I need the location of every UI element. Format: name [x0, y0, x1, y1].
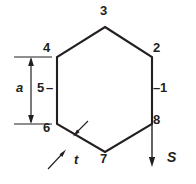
tick-mark-for-label-5: –	[46, 81, 53, 94]
thickness-leader-lower	[48, 153, 63, 169]
vertex-label-7: 7	[100, 152, 107, 165]
shear-arrowhead	[149, 157, 155, 167]
vertex-label-4: 4	[43, 41, 50, 54]
hexagon-outline	[57, 27, 152, 152]
vertex-label-8: 8	[153, 113, 160, 126]
vertex-label-6: 6	[43, 121, 50, 134]
dimension-label-t: t	[74, 153, 78, 166]
vertex-label-1: 1	[160, 81, 167, 94]
tick-mark-for-label-1: –	[153, 81, 160, 94]
dimension-label-S: S	[167, 150, 176, 164]
vertex-label-3: 3	[100, 4, 107, 17]
dimension-label-a: a	[16, 81, 23, 94]
hexagon-cross-section-figure: 1 2 3 4 5 6 7 8 – – a t S	[0, 0, 196, 184]
dimension-a-arrowhead-down	[28, 115, 34, 124]
vertex-label-5: 5	[37, 81, 44, 94]
vertex-label-2: 2	[153, 41, 160, 54]
dimension-a-arrowhead-up	[28, 57, 34, 66]
